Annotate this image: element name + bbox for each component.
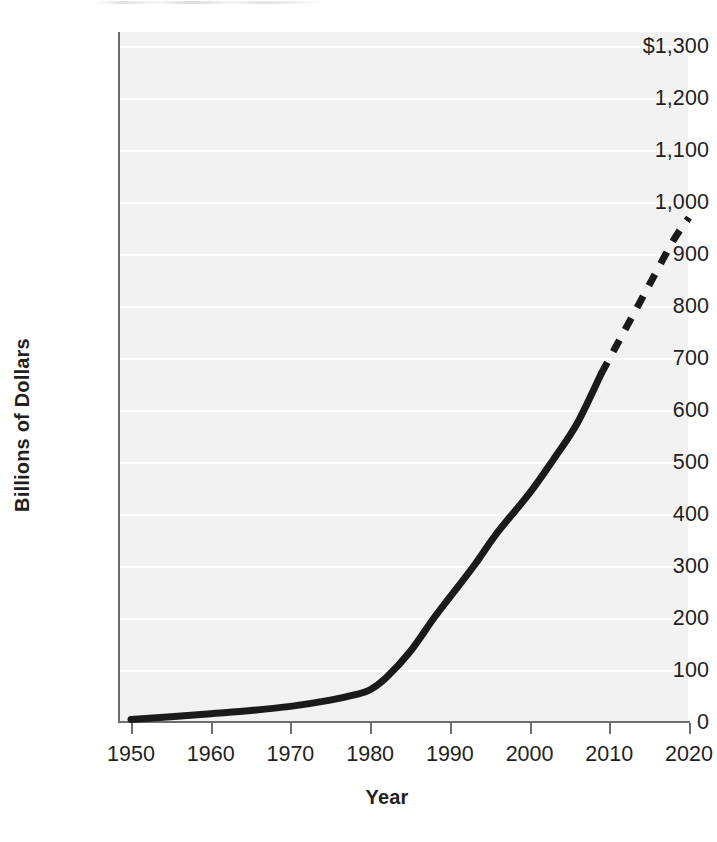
y-axis-title: Billions of Dollars [11,338,34,512]
x-axis-title: Year [0,786,709,809]
series-line-actual [131,374,601,720]
series-line-projected [601,218,689,374]
